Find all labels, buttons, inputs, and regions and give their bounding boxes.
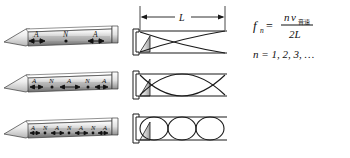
wave-envelope-lower-1 (140, 31, 225, 52)
node-marker (92, 132, 95, 135)
tube-label: A (54, 124, 59, 131)
tube-label: A (66, 77, 72, 85)
formula-f-subscript: n (260, 26, 264, 35)
formula-f-symbol: f (253, 18, 259, 33)
tube-open-end-2 (112, 72, 118, 89)
formula-equals: = (266, 19, 273, 33)
arrow-right-icon (218, 15, 225, 20)
tube-open-end-3 (112, 118, 118, 135)
tube-tip-2 (4, 75, 30, 92)
tube-label: N (90, 124, 96, 131)
formula-panel: f n = n v 音速 2L n = 1, 2, 3, … (243, 0, 350, 158)
node-marker (51, 86, 54, 89)
wave-envelope-upper-2 (140, 75, 225, 96)
length-label: L (178, 12, 185, 23)
tube-tip-3 (4, 121, 30, 138)
tube-illustration-panel: A N A A N (0, 0, 130, 158)
tube-open-end-1 (112, 26, 118, 43)
wave-loop-1 (140, 117, 168, 140)
tube-label: A (92, 30, 98, 39)
wave-envelope-upper-1 (140, 32, 225, 53)
tube-label: N (42, 124, 48, 131)
formula-denominator: 2L (289, 28, 301, 40)
standing-wave-panel: L (128, 0, 243, 158)
wave-loop-2 (168, 117, 196, 140)
wave-row-3 (133, 114, 227, 143)
tube-label: A (78, 124, 83, 131)
driver-bracket-3 (133, 114, 139, 143)
tube-tip-1 (4, 29, 30, 46)
wave-row-2 (133, 71, 227, 99)
length-dimension: L (140, 6, 225, 30)
tube-row-2: A N A N A (4, 72, 118, 92)
node-marker (44, 132, 47, 135)
node-marker (68, 132, 71, 135)
wave-row-1 (133, 29, 227, 55)
formula-n-values: n = 1, 2, 3, … (253, 48, 314, 60)
node-marker (87, 86, 90, 89)
tube-label: A (30, 124, 35, 131)
tube-row-1: A N A (4, 26, 118, 46)
tube-label: N (62, 30, 69, 39)
wave-envelope-lower-2 (140, 74, 225, 95)
tube-label: N (48, 77, 54, 85)
tube-label: N (66, 124, 72, 131)
formula-numerator-v: v (291, 11, 296, 23)
tube-row-3: A N A N A N A (4, 118, 118, 138)
tube-label: N (84, 77, 90, 85)
node-marker (64, 39, 67, 42)
arrow-left-icon (141, 15, 148, 20)
driver-bracket-2 (133, 71, 139, 99)
formula-numerator-n: n (284, 11, 290, 23)
driver-bracket-1 (133, 29, 139, 55)
tube-label: A (102, 124, 107, 131)
tube-label: A (101, 77, 107, 85)
figure-root: A N A A N (0, 0, 350, 158)
tube-label: A (31, 77, 37, 85)
wave-loop-3 (196, 117, 224, 140)
tube-label: A (33, 30, 39, 39)
